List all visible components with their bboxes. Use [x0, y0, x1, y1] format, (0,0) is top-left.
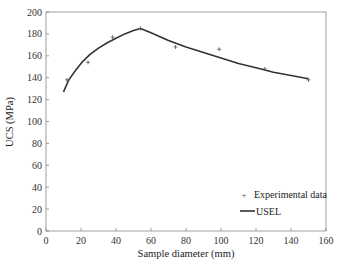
plus-marker-icon: +	[241, 190, 246, 200]
y-axis-title: UCS (MPa)	[4, 97, 16, 147]
x-tick-label: 60	[146, 235, 156, 246]
y-tick-label: 60	[32, 160, 42, 171]
y-tick-label: 160	[27, 50, 42, 61]
usel-curve	[64, 28, 309, 92]
x-tick-label: 100	[214, 235, 229, 246]
experimental-data-points	[65, 26, 311, 81]
legend: + Experimental data USEL	[240, 189, 328, 217]
y-tick-label: 200	[27, 7, 42, 18]
legend-label-experimental-data: Experimental data	[254, 189, 328, 200]
x-tick-label: 140	[284, 235, 299, 246]
y-tick-label: 140	[27, 72, 42, 83]
data-point	[86, 60, 90, 64]
legend-item-usel: USEL	[240, 206, 281, 217]
y-tick-label: 100	[27, 116, 42, 127]
x-axis-title: Sample diameter (mm)	[138, 248, 235, 260]
x-tick-label: 80	[181, 235, 191, 246]
legend-label-usel: USEL	[256, 206, 281, 217]
x-tick-label: 40	[111, 235, 121, 246]
y-tick-label: 180	[27, 28, 42, 39]
x-tick-label: 120	[249, 235, 264, 246]
y-tick-label: 0	[37, 226, 42, 237]
x-tick-label: 160	[319, 235, 334, 246]
y-tick-label: 20	[32, 204, 42, 215]
y-tick-label: 40	[32, 182, 42, 193]
x-tick-label: 20	[76, 235, 86, 246]
legend-item-experimental-data: + Experimental data	[241, 189, 327, 200]
data-point	[174, 45, 178, 49]
usel-line	[64, 28, 309, 92]
y-tick-label: 120	[27, 94, 42, 105]
data-point	[217, 47, 221, 51]
y-tick-label: 80	[32, 138, 42, 149]
chart: 020406080100120140160180200 020406080100…	[0, 0, 342, 265]
x-tick-label: 0	[44, 235, 49, 246]
